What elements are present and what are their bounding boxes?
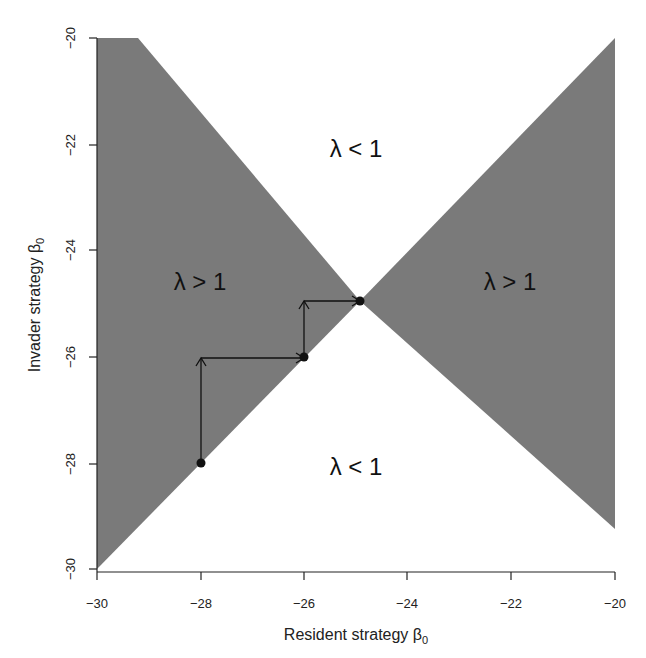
region-label-left: λ > 1 (174, 268, 227, 295)
svg-text:−20: −20 (63, 27, 78, 49)
x-tick-labels: −30 −28 −26 −24 −22 −20 (86, 596, 626, 611)
svg-text:−22: −22 (500, 596, 522, 611)
region-label-bottom: λ < 1 (330, 453, 383, 480)
svg-text:−24: −24 (63, 239, 78, 261)
svg-text:−22: −22 (63, 134, 78, 156)
y-axis (89, 38, 97, 572)
svg-text:−20: −20 (604, 596, 626, 611)
svg-text:−28: −28 (190, 596, 212, 611)
pip-chart: −30 −28 −26 −24 −22 −20 Resident strateg… (0, 0, 646, 658)
svg-text:−30: −30 (86, 596, 108, 611)
svg-text:−28: −28 (63, 453, 78, 475)
x-axis-title: Resident strategy β0 (284, 626, 428, 646)
singular-strategy-point (356, 297, 365, 306)
svg-text:−24: −24 (396, 596, 418, 611)
svg-text:−30: −30 (63, 558, 78, 580)
region-label-top: λ < 1 (330, 135, 383, 162)
region-label-right: λ > 1 (484, 268, 537, 295)
svg-text:−26: −26 (63, 346, 78, 368)
region-left-shade (97, 38, 360, 569)
x-axis (97, 572, 615, 580)
trajectory-point-start (197, 459, 206, 468)
y-tick-labels: −20 −22 −24 −26 −28 −30 (63, 27, 78, 580)
svg-text:−26: −26 (293, 596, 315, 611)
y-axis-title: Invader strategy β0 (26, 238, 46, 373)
trajectory-point-mid (300, 353, 309, 362)
